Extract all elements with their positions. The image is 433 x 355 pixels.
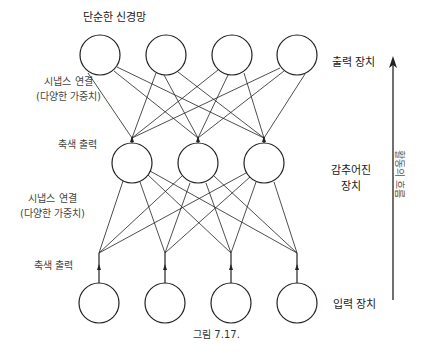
synapse-label-top-line2: (다양한 가중치): [36, 88, 101, 103]
synapse-connections-top: [88, 67, 305, 138]
output-neuron: [80, 35, 120, 75]
hidden-layer-label: 감추어진 장치: [331, 163, 371, 195]
input-layer-label: 입력 장치: [333, 295, 377, 311]
hidden-layer-label-line2: 장치: [331, 179, 371, 195]
hidden-neuron: [112, 143, 152, 183]
hidden-neuron: [178, 143, 218, 183]
output-neuron: [146, 35, 186, 75]
input-neuron: [277, 283, 317, 323]
axon-stems: [99, 138, 297, 283]
axon-arrowheads: [97, 136, 299, 270]
hidden-layer-label-line1: 감추어진: [331, 163, 371, 179]
axon-output-label-top: 축색 출력: [58, 136, 97, 151]
synapse-label-bottom-line2: (다양한 가중치): [20, 205, 85, 220]
synapse-label-top: 시냅스 연결 (다양한 가중치): [36, 73, 101, 103]
synapse-label-bottom-line1: 시냅스 연결: [20, 190, 85, 205]
axon-output-label-bottom: 축색 출력: [34, 257, 73, 272]
figure-caption: 그림 7.17.: [0, 326, 433, 341]
synapse-label-top-line1: 시냅스 연결: [36, 73, 101, 88]
input-neuron: [145, 283, 185, 323]
output-neuron: [212, 35, 252, 75]
input-neuron: [211, 283, 251, 323]
output-neuron: [277, 35, 317, 75]
synapse-label-bottom: 시냅스 연결 (다양한 가중치): [20, 190, 85, 220]
input-neuron: [79, 283, 119, 323]
output-layer-label: 출력 장치: [332, 53, 376, 69]
flow-of-activity-label: 활동의 흐름: [393, 150, 408, 198]
